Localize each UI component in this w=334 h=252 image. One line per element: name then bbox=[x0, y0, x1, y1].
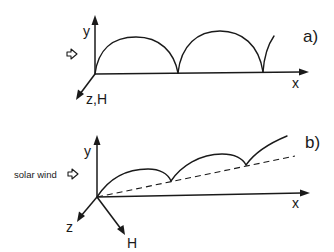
panel-a: y x z,H a) bbox=[67, 15, 318, 107]
arrowhead-icon bbox=[92, 15, 99, 25]
x-axis-a bbox=[95, 69, 309, 76]
z-axis-label: z bbox=[66, 219, 73, 235]
solar-wind-label: solar wind bbox=[14, 169, 57, 180]
trajectory-b bbox=[97, 136, 287, 197]
h-vector-label: H bbox=[127, 235, 137, 251]
panel-b: solar wind y x z H b) bbox=[14, 133, 320, 251]
trajectory-a bbox=[95, 31, 274, 74]
x-axis-label: x bbox=[292, 75, 299, 91]
drift-line bbox=[97, 156, 295, 197]
z-axis-b bbox=[77, 197, 97, 222]
arrowhead-icon bbox=[299, 69, 309, 76]
panel-label-b: b) bbox=[305, 133, 320, 152]
y-axis-b bbox=[94, 135, 101, 197]
arrowhead-icon bbox=[94, 135, 101, 145]
y-axis-label: y bbox=[83, 23, 90, 39]
y-axis-a bbox=[92, 15, 99, 74]
solar-wind-arrow-icon bbox=[68, 169, 78, 179]
x-axis-label: x bbox=[292, 195, 299, 211]
arrowhead-icon bbox=[300, 190, 310, 197]
inflow-arrow-icon bbox=[67, 49, 77, 59]
z-axis-label: z,H bbox=[86, 91, 107, 107]
figure: y x z,H a) bbox=[0, 0, 334, 252]
y-axis-label: y bbox=[84, 143, 91, 159]
panel-label-a: a) bbox=[303, 27, 318, 46]
h-vector-b bbox=[97, 197, 125, 235]
